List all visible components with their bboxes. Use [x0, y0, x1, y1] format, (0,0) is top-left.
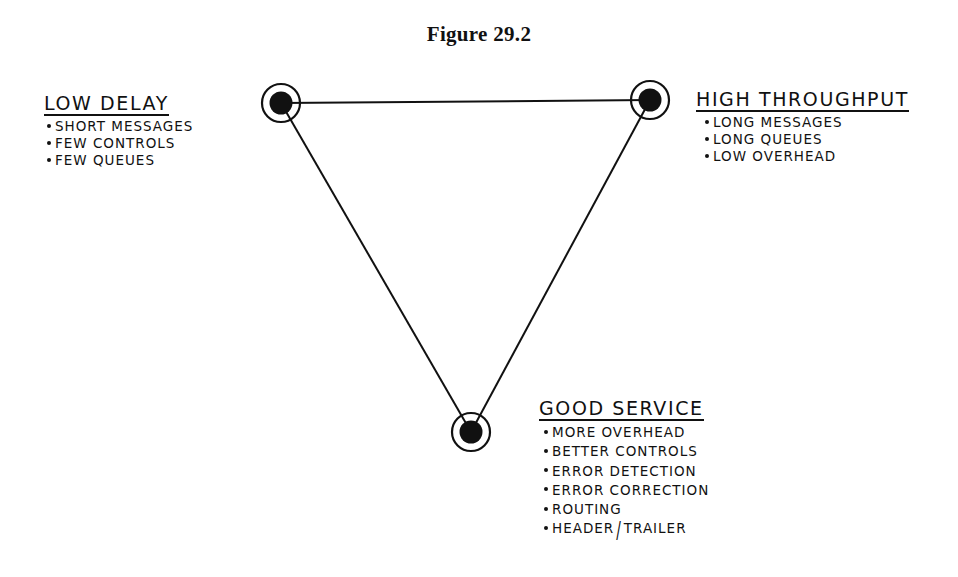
- bullet-icon: [705, 120, 709, 124]
- label-list: SHORT MESSAGES FEW CONTROLS FEW QUEUES: [44, 118, 193, 169]
- list-item: HEADER/TRAILER: [541, 519, 709, 538]
- node-dot-icon: [639, 89, 662, 112]
- list-item: ROUTING: [541, 500, 709, 519]
- label-list: LONG MESSAGES LONG QUEUES LOW OVERHEAD: [702, 114, 909, 165]
- label-heading: HIGH THROUGHPUT: [696, 89, 909, 112]
- edge-high-throughput-to-good-service: [471, 100, 650, 432]
- node-dot-icon: [460, 421, 483, 444]
- list-item: FEW CONTROLS: [44, 135, 193, 152]
- bullet-icon: [544, 526, 548, 530]
- bullet-icon: [705, 137, 709, 141]
- list-item: FEW QUEUES: [44, 152, 193, 169]
- label-heading: LOW DELAY: [44, 93, 169, 116]
- bullet-icon: [544, 430, 548, 434]
- list-item: MORE OVERHEAD: [541, 423, 709, 442]
- list-item: ERROR DETECTION: [541, 462, 709, 481]
- list-item: SHORT MESSAGES: [44, 118, 193, 135]
- list-item: LONG MESSAGES: [702, 114, 909, 131]
- list-item: BETTER CONTROLS: [541, 442, 709, 461]
- bullet-icon: [544, 507, 548, 511]
- bullet-icon: [544, 468, 548, 472]
- node-good-service: [452, 413, 490, 451]
- label-list: MORE OVERHEAD BETTER CONTROLS ERROR DETE…: [541, 423, 709, 539]
- bullet-icon: [47, 141, 51, 145]
- label-good-service: GOOD SERVICE MORE OVERHEAD BETTER CONTRO…: [539, 398, 709, 539]
- node-dot-icon: [270, 92, 293, 115]
- list-item: LOW OVERHEAD: [702, 148, 909, 165]
- label-heading: GOOD SERVICE: [539, 398, 704, 421]
- triangle-edges: [281, 100, 650, 432]
- list-item: ERROR CORRECTION: [541, 481, 709, 500]
- slash-separator: /: [616, 514, 622, 547]
- edge-good-service-to-low-delay: [281, 103, 471, 432]
- bullet-icon: [705, 154, 709, 158]
- edge-low-delay-to-high-throughput: [281, 100, 650, 103]
- bullet-icon: [47, 158, 51, 162]
- tradeoff-triangle-diagram: [0, 0, 958, 577]
- bullet-icon: [544, 449, 548, 453]
- label-low-delay: LOW DELAY SHORT MESSAGES FEW CONTROLS FE…: [44, 93, 193, 169]
- bullet-icon: [544, 487, 548, 491]
- bullet-icon: [47, 124, 51, 128]
- label-high-throughput: HIGH THROUGHPUT LONG MESSAGES LONG QUEUE…: [696, 89, 909, 165]
- list-item: LONG QUEUES: [702, 131, 909, 148]
